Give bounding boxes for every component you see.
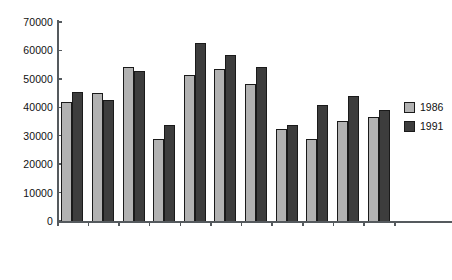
bar: [195, 43, 206, 221]
legend-swatch-icon: [404, 102, 415, 113]
bar: [214, 69, 225, 221]
bar: [134, 71, 145, 221]
legend-label: 1991: [420, 120, 443, 132]
y-axis-tick: 10000: [23, 187, 57, 199]
x-axis-tick-mark: [271, 221, 273, 226]
legend-swatch-icon: [404, 121, 415, 132]
bar-group: [149, 22, 180, 221]
bar: [153, 139, 164, 221]
y-axis-tick: 70000: [23, 16, 57, 28]
bar: [368, 117, 379, 221]
bar-group: [210, 22, 241, 221]
y-axis-tick-label: 30000: [23, 130, 57, 142]
x-axis-line: [57, 221, 452, 223]
x-axis-tick-mark: [302, 221, 304, 226]
chart-legend: 19861991: [404, 101, 443, 139]
x-axis-tick-mark: [180, 221, 182, 226]
bar-group: [363, 22, 394, 221]
bar: [256, 67, 267, 221]
bar-group: [271, 22, 302, 221]
plot-area: [57, 22, 394, 221]
y-axis-tick-label: 60000: [23, 44, 57, 56]
y-axis-tick: 30000: [23, 130, 57, 142]
bar-chart: 700006000050000400003000020000100000 Ita…: [0, 0, 452, 280]
bar: [337, 121, 348, 221]
bar: [72, 92, 83, 221]
bar-group: [180, 22, 211, 221]
bar-group: [241, 22, 272, 221]
bar: [306, 139, 317, 221]
bar: [225, 55, 236, 221]
y-axis-tick-label: 10000: [23, 187, 57, 199]
bar-group: [333, 22, 364, 221]
y-axis-tick-label: 70000: [23, 16, 57, 28]
x-axis-tick-mark: [363, 221, 365, 226]
bar-group: [88, 22, 119, 221]
bar: [287, 125, 298, 221]
legend-label: 1986: [420, 101, 443, 113]
y-axis-tick-label: 0: [47, 215, 57, 227]
bar: [184, 75, 195, 221]
y-axis-tick-label: 40000: [23, 101, 57, 113]
bar: [61, 102, 72, 221]
y-axis-tick: 50000: [23, 73, 57, 85]
x-axis-tick-mark: [210, 221, 212, 226]
x-axis-tick-mark: [88, 221, 90, 226]
x-axis-tick-mark: [118, 221, 120, 226]
bar: [164, 125, 175, 221]
x-axis-tick-mark: [394, 221, 396, 226]
bar: [348, 96, 359, 221]
bar: [103, 100, 114, 221]
y-axis-tick: 0: [47, 215, 57, 227]
x-axis-tick-mark: [333, 221, 335, 226]
y-axis-tick-label: 20000: [23, 158, 57, 170]
y-axis-tick: 40000: [23, 101, 57, 113]
y-axis-tick-label: 50000: [23, 73, 57, 85]
bar-group: [57, 22, 88, 221]
y-axis-tick: 60000: [23, 44, 57, 56]
bar: [317, 105, 328, 221]
legend-item: 1991: [404, 120, 443, 132]
bar: [92, 93, 103, 221]
x-axis-tick-mark: [149, 221, 151, 226]
legend-item: 1986: [404, 101, 443, 113]
x-axis-tick-mark: [57, 221, 59, 226]
bar: [379, 110, 390, 221]
bar: [123, 67, 134, 221]
bar-group: [118, 22, 149, 221]
bar: [276, 129, 287, 221]
x-axis-tick-mark: [241, 221, 243, 226]
bar-group: [302, 22, 333, 221]
bar: [245, 84, 256, 221]
y-axis-tick: 20000: [23, 158, 57, 170]
